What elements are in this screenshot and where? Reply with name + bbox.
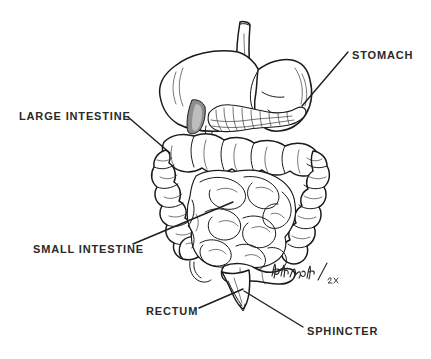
label-stomach: STOMACH [352,49,413,61]
digestive-system-figure: STOMACH LARGE INTESTINE SMALL INTESTINE … [0,0,431,359]
label-rectum: RECTUM [146,305,198,317]
label-small-intestine: SMALL INTESTINE [33,243,144,255]
label-large-intestine: LARGE INTESTINE [19,110,131,122]
anatomy-illustration: STOMACH LARGE INTESTINE SMALL INTESTINE … [0,0,431,359]
label-sphincter: SPHINCTER [307,325,378,337]
small-intestine-coils [187,170,295,271]
